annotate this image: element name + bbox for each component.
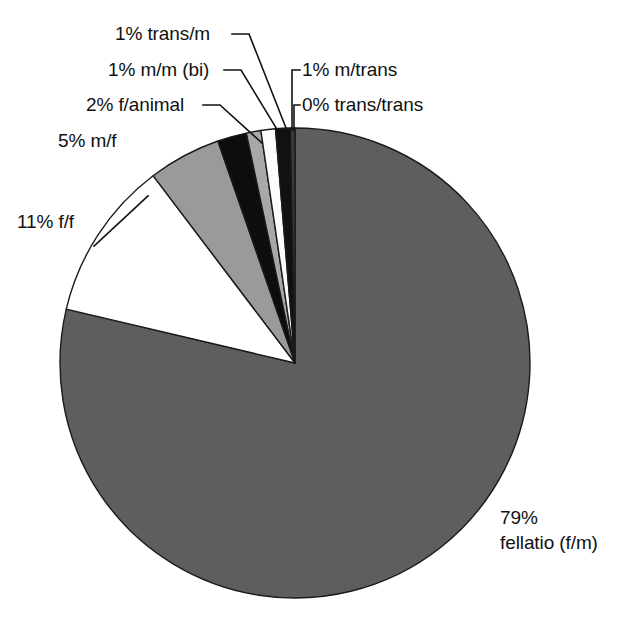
- slice-label-f-f: 11% f/f: [17, 210, 74, 233]
- slice-label-trans-trans: 0% trans/trans: [302, 93, 423, 116]
- leader-line-trans-trans: [294, 105, 300, 130]
- pie-chart-figure: 1% trans/m 1% m/m (bi) 2% f/animal 5% m/…: [0, 0, 629, 631]
- leader-line-mm-bi: [224, 70, 281, 136]
- slice-label-fellatio-percent: 79%: [500, 505, 598, 530]
- slice-label-fellatio: 79% fellatio (f/m): [500, 505, 598, 555]
- slice-label-m-trans: 1% m/trans: [302, 58, 397, 81]
- slice-label-m-f: 5% m/f: [58, 129, 117, 152]
- slice-label-f-animal: 2% f/animal: [86, 93, 184, 116]
- pie-slices-group: [60, 128, 530, 598]
- leader-line-trans-m: [232, 34, 288, 133]
- slice-label-trans-m: 1% trans/m: [115, 22, 210, 45]
- slice-label-mm-bi: 1% m/m (bi): [108, 58, 209, 81]
- slice-label-fellatio-name: fellatio (f/m): [500, 530, 598, 555]
